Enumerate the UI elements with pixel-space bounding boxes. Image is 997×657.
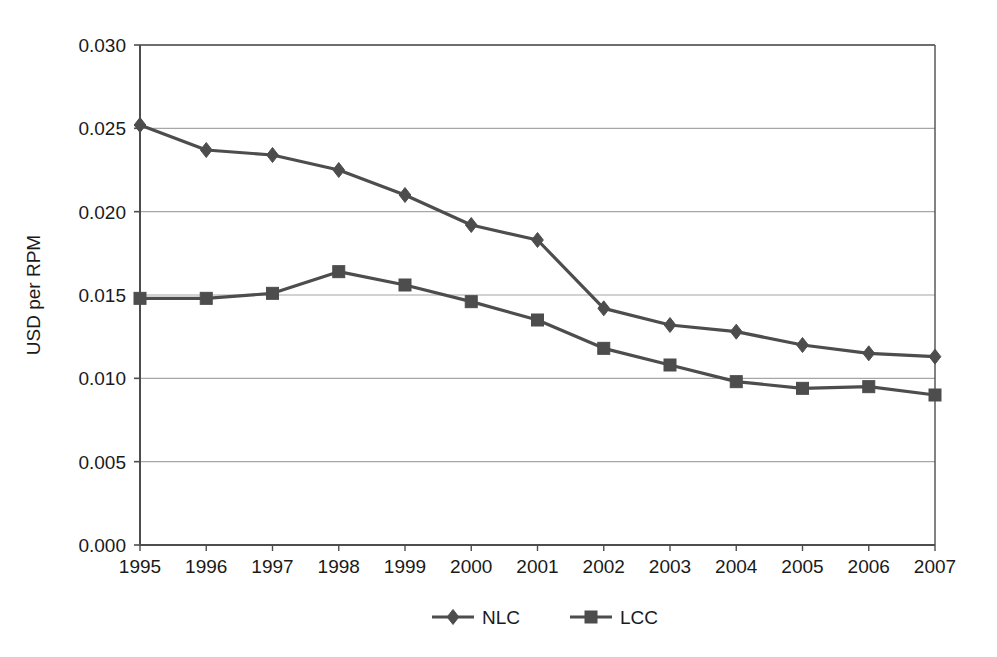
y-tick-label: 0.025: [78, 118, 126, 139]
data-point-lcc-1995: [134, 292, 146, 304]
data-point-lcc-2006: [863, 381, 875, 393]
data-point-lcc-2002: [598, 342, 610, 354]
y-tick-label: 0.000: [78, 535, 126, 556]
line-chart: 0.0000.0050.0100.0150.0200.0250.030 1995…: [0, 0, 997, 657]
data-point-lcc-2001: [532, 314, 544, 326]
x-tick-label: 1996: [185, 556, 227, 577]
data-point-lcc-1999: [399, 279, 411, 291]
legend-marker-square-icon: [585, 611, 597, 623]
data-point-lcc-1998: [333, 266, 345, 278]
chart-container: 0.0000.0050.0100.0150.0200.0250.030 1995…: [0, 0, 997, 657]
data-point-lcc-1997: [267, 287, 279, 299]
data-point-lcc-2000: [465, 296, 477, 308]
x-tick-label: 2006: [848, 556, 890, 577]
legend-label-nlc: NLC: [482, 607, 520, 628]
y-axis-title: USD per RPM: [23, 235, 44, 355]
y-tick-label: 0.015: [78, 285, 126, 306]
x-tick-label: 2004: [715, 556, 758, 577]
x-tick-label: 2003: [649, 556, 691, 577]
x-tick-label: 1995: [119, 556, 161, 577]
y-tick-label: 0.010: [78, 368, 126, 389]
y-tick-label: 0.020: [78, 202, 126, 223]
y-tick-label: 0.030: [78, 35, 126, 56]
x-tick-label: 1998: [318, 556, 360, 577]
data-point-lcc-2003: [664, 359, 676, 371]
data-point-lcc-2005: [797, 382, 809, 394]
x-tick-label: 1999: [384, 556, 426, 577]
legend-label-lcc: LCC: [620, 607, 658, 628]
x-tick-label: 2007: [914, 556, 956, 577]
x-tick-label: 2005: [781, 556, 823, 577]
y-tick-label: 0.005: [78, 452, 126, 473]
x-tick-label: 1997: [251, 556, 293, 577]
x-tick-label: 2000: [450, 556, 492, 577]
data-point-lcc-2004: [730, 376, 742, 388]
data-point-lcc-1996: [200, 292, 212, 304]
x-tick-label: 2001: [516, 556, 558, 577]
data-point-lcc-2007: [929, 389, 941, 401]
x-tick-label: 2002: [583, 556, 625, 577]
y-axis-title-text: USD per RPM: [23, 235, 44, 355]
